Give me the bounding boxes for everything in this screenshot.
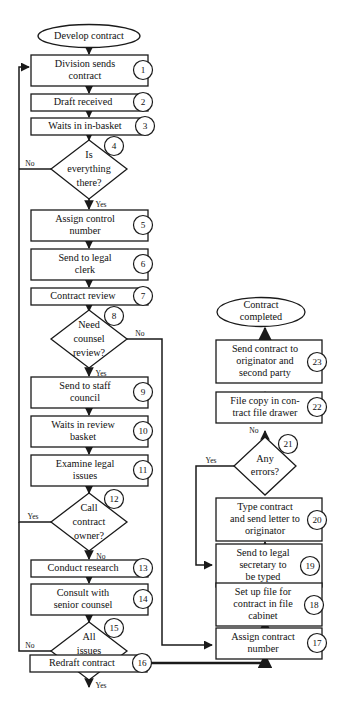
step-19-line-3: be typed	[246, 571, 281, 582]
edge-label-15-no: No	[25, 641, 34, 650]
node-step-10[interactable]: Waits in review basket 10	[31, 416, 153, 447]
edge-left-rail-to-1	[19, 67, 29, 169]
edge-label-8-no: No	[135, 329, 144, 338]
step-11-line-1: Examine legal	[56, 458, 115, 469]
node-step-12[interactable]: Call contract owner? 12	[51, 490, 127, 552]
step-23-line-1: Send contract to	[232, 343, 298, 354]
step-18-line-1: Set up file for	[235, 586, 292, 597]
step-23-line-3: second party	[239, 367, 292, 378]
step-17-number: 17	[312, 638, 322, 648]
step-12-line-1: Call	[81, 502, 98, 513]
step-19-line-1: Send to legal	[236, 547, 289, 558]
step-16-number: 16	[137, 658, 147, 668]
node-step-21[interactable]: Any errors? 21	[234, 435, 298, 496]
step-17-line-1: Assign contract	[231, 631, 295, 642]
step-1-line-1: Division sends	[55, 58, 115, 69]
step-21-line-2: errors?	[251, 466, 280, 477]
node-step-18[interactable]: Set up file for contract in file cabinet…	[216, 583, 324, 626]
step-9-number: 9	[141, 387, 146, 397]
step-9-line-1: Send to staff	[59, 380, 111, 391]
step-15-line-1: All	[82, 631, 95, 642]
step-7-line-1: Contract review	[50, 290, 116, 301]
node-step-6[interactable]: Send to legal clerk 6	[31, 249, 153, 280]
step-5-line-1: Assign control	[55, 213, 115, 224]
step-6-number: 6	[141, 259, 146, 269]
node-step-14[interactable]: Consult with senior counsel 14	[31, 584, 153, 615]
start-terminator-label: Develop contract	[54, 30, 124, 41]
node-step-19[interactable]: Send to legal secretary to be typed 19	[216, 544, 322, 587]
step-1-line-2: contract	[69, 70, 102, 81]
step-1-number: 1	[141, 65, 146, 75]
node-step-20[interactable]: Type contract and send letter to origina…	[216, 498, 327, 541]
step-20-number: 20	[312, 515, 322, 525]
step-14-line-1: Consult with	[57, 587, 109, 598]
step-21-line-1: Any	[256, 453, 274, 464]
node-step-11[interactable]: Examine legal issues 11	[31, 455, 153, 486]
node-step-3[interactable]: Waits in in-basket 3	[31, 117, 155, 136]
edge-label-21-yes: Yes	[205, 456, 216, 465]
step-3-number: 3	[143, 121, 148, 131]
step-3-line-1: Waits in in-basket	[48, 120, 121, 131]
step-15-number: 15	[109, 623, 119, 633]
edge-label-21-no: No	[249, 426, 258, 435]
step-13-line-1: Conduct research	[48, 562, 119, 573]
step-5-line-2: number	[69, 225, 101, 236]
step-23-number: 23	[312, 357, 322, 367]
edge-label-4-no: No	[25, 159, 34, 168]
step-18-number: 18	[309, 600, 319, 610]
step-8-line-3: review?	[73, 347, 106, 358]
step-4-number: 4	[112, 141, 117, 151]
step-8-line-1: Need	[78, 319, 100, 330]
step-19-number: 19	[305, 561, 315, 571]
step-20-line-1: Type contract	[237, 501, 293, 512]
node-step-23[interactable]: Send contract to originator and second p…	[216, 340, 327, 383]
step-2-number: 2	[141, 97, 146, 107]
step-8-line-2: counsel	[73, 333, 104, 344]
step-20-line-2: and send letter to	[230, 513, 300, 524]
step-10-number: 10	[138, 426, 148, 436]
node-step-22[interactable]: File copy in con- tract file drawer 22	[216, 392, 327, 423]
node-step-2[interactable]: Draft received 2	[31, 93, 153, 112]
step-10-line-1: Waits in review	[51, 419, 115, 430]
node-step-16[interactable]: Redraft contract 16	[30, 654, 152, 673]
step-18-line-3: cabinet	[248, 610, 278, 621]
node-step-4[interactable]: Is everything there? 4	[51, 137, 127, 200]
node-step-5[interactable]: Assign control number 5	[31, 210, 153, 241]
node-step-8[interactable]: Need counsel review? 8	[51, 307, 127, 369]
flowchart-diagram: Develop contract Division sends contract…	[0, 0, 340, 703]
node-start-terminator[interactable]: Develop contract	[38, 25, 140, 48]
node-step-17[interactable]: Assign contract number 17	[216, 628, 327, 659]
step-22-line-1: File copy in con-	[230, 395, 300, 406]
step-11-number: 11	[139, 465, 148, 475]
node-step-1[interactable]: Division sends contract 1	[31, 55, 153, 86]
step-4-line-1: Is	[85, 149, 92, 160]
end-terminator-line-1: Contract	[243, 299, 278, 310]
step-6-line-1: Send to legal	[58, 252, 111, 263]
flowchart-canvas: Develop contract Division sends contract…	[0, 0, 340, 703]
step-9-line-2: council	[70, 392, 100, 403]
step-12-line-3: owner?	[74, 530, 104, 541]
step-16-line-1: Redraft contract	[49, 657, 115, 668]
node-step-7[interactable]: Contract review 7	[31, 287, 153, 306]
step-21-number: 21	[283, 439, 293, 449]
step-12-line-2: contract	[73, 516, 106, 527]
step-7-number: 7	[141, 291, 146, 301]
step-10-line-2: basket	[70, 431, 96, 442]
node-step-13[interactable]: Conduct research 13	[31, 559, 153, 578]
step-23-line-2: originator and	[236, 355, 293, 366]
step-22-number: 22	[312, 402, 322, 412]
step-19-line-2: secretary to	[239, 559, 286, 570]
step-2-line-1: Draft received	[54, 96, 113, 107]
node-end-terminator[interactable]: Contract completed	[217, 298, 305, 327]
end-terminator-line-2: completed	[240, 311, 282, 322]
step-4-line-2: everything	[67, 163, 111, 174]
node-step-9[interactable]: Send to staff council 9	[31, 377, 153, 408]
step-11-line-2: issues	[73, 470, 97, 481]
step-13-number: 13	[138, 563, 148, 573]
step-4-line-3: there?	[77, 177, 102, 188]
step-12-number: 12	[109, 494, 119, 504]
step-8-number: 8	[112, 311, 117, 321]
step-14-line-2: senior counsel	[54, 599, 113, 610]
step-5-number: 5	[141, 220, 146, 230]
step-6-line-2: clerk	[75, 264, 96, 275]
